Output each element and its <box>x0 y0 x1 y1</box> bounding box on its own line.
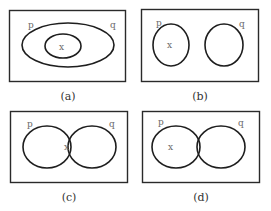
panel-b: p q x (b) <box>142 10 259 104</box>
set-q-ellipse-d <box>197 126 245 168</box>
caption-a: (a) <box>60 90 75 103</box>
element-label-x-b: x <box>167 40 172 50</box>
panel-a: p q x (a) <box>10 11 126 104</box>
set-label-q-d: q <box>238 118 244 128</box>
element-label-x-a: x <box>59 42 64 52</box>
set-q-ellipse-c <box>68 126 116 168</box>
panel-c: p q x (c) <box>11 112 128 205</box>
set-label-q-a: q <box>110 20 116 30</box>
set-label-p-d: p <box>158 117 164 127</box>
set-label-p-a: p <box>28 20 34 30</box>
caption-b: (b) <box>192 90 208 103</box>
caption-c: (c) <box>62 191 77 204</box>
universe-rect-a <box>10 11 126 82</box>
element-label-x-d: x <box>168 142 173 152</box>
set-q-ellipse-b <box>205 24 243 66</box>
set-p-ellipse-d <box>152 126 200 168</box>
set-label-p-c: p <box>27 119 33 129</box>
venn-diagram-figure: p q x (a) p q x (b) p q x (c) p q x (d) <box>0 0 271 211</box>
set-q-ellipse-a <box>22 23 114 67</box>
caption-d: (d) <box>193 191 209 204</box>
element-label-x-c: x <box>64 142 69 152</box>
set-label-q-c: q <box>109 119 115 129</box>
set-label-p-b: p <box>156 18 162 28</box>
panel-d: p q x (d) <box>143 112 260 205</box>
set-label-q-b: q <box>239 19 245 29</box>
